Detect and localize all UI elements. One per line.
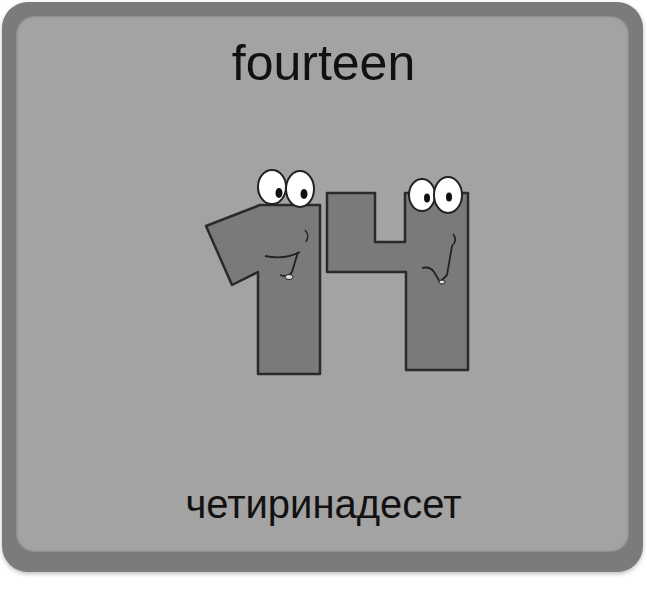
- number-14-illustration: [190, 160, 480, 380]
- digit-four-character-icon: [327, 177, 468, 370]
- bulgarian-word: четиринадесет: [0, 484, 647, 524]
- english-word: fourteen: [0, 38, 647, 88]
- digit-one-character-icon: [206, 170, 320, 374]
